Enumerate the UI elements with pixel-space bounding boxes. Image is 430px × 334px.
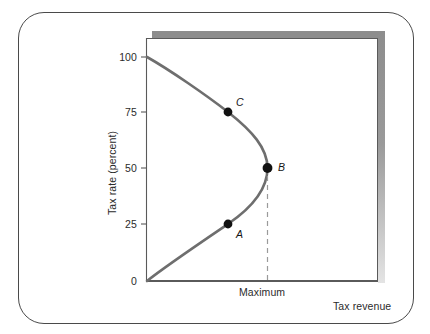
- y-axis-title: Tax rate (percent): [106, 131, 118, 215]
- data-point-b: [263, 163, 273, 173]
- y-tick-label-75: 75: [109, 106, 137, 118]
- laffer-curve-chart: 100 75 50 25 0 Tax rate (percent) C B A …: [0, 0, 430, 334]
- x-axis-title: Tax revenue: [333, 300, 391, 312]
- laffer-curve: [147, 57, 268, 281]
- y-tick-label-100: 100: [109, 51, 137, 63]
- data-point-c: [224, 108, 233, 117]
- point-label-b: B: [278, 161, 285, 173]
- plot-graphics: [0, 0, 430, 334]
- y-tick-label-25: 25: [109, 218, 137, 230]
- point-label-c: C: [236, 96, 244, 108]
- data-point-a: [224, 220, 233, 229]
- y-tick-label-0: 0: [109, 275, 137, 287]
- point-label-a: A: [236, 228, 243, 240]
- maximum-label: Maximum: [239, 286, 285, 298]
